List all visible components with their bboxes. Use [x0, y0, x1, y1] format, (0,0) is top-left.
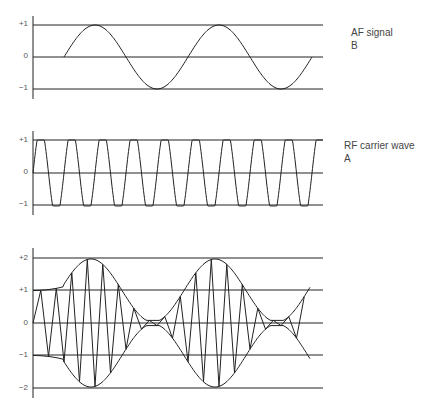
am-tick-minus2: −2 [2, 383, 28, 392]
af-signal-title: AF signal [351, 26, 393, 39]
rf-carrier-title: RF carrier wave [344, 139, 415, 152]
af-tick-zero: 0 [2, 51, 28, 60]
af-tick-plus1: +1 [2, 19, 28, 28]
am-tick-plus1: +1 [2, 285, 28, 294]
rf-carrier-letter: A [344, 152, 415, 165]
am-tick-minus1: −1 [2, 350, 28, 359]
am-tick-zero: 0 [2, 318, 28, 327]
rf-tick-minus1: −1 [2, 199, 28, 208]
rf-carrier-label: RF carrier wave A [344, 139, 415, 165]
rf-tick-zero: 0 [2, 167, 28, 176]
diagram-canvas [0, 0, 443, 411]
af-signal-label: AF signal B [351, 26, 393, 52]
af-tick-minus1: −1 [2, 83, 28, 92]
am-wave-panel [33, 248, 323, 398]
am-tick-plus2: +2 [2, 253, 28, 262]
rf-carrier-panel [33, 131, 323, 215]
af-signal-letter: B [351, 39, 393, 52]
rf-tick-plus1: +1 [2, 135, 28, 144]
af-signal-panel [33, 16, 323, 99]
